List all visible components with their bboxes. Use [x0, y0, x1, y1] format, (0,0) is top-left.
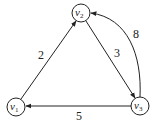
- node-v2: v2: [72, 4, 90, 22]
- edge-v2-v3: [86, 21, 135, 98]
- weight-v3-v2: 8: [133, 27, 139, 41]
- weight-v3-v1: 5: [76, 109, 82, 123]
- weight-v1-v2: 2: [38, 48, 44, 62]
- node-v1: v1: [7, 98, 25, 116]
- weight-v2-v3: 3: [114, 46, 120, 60]
- graph-diagram: 2 3 8 5 v1 v2 v3: [0, 0, 157, 125]
- node-v3: v3: [131, 97, 149, 115]
- edge-v1-v2: [21, 21, 76, 99]
